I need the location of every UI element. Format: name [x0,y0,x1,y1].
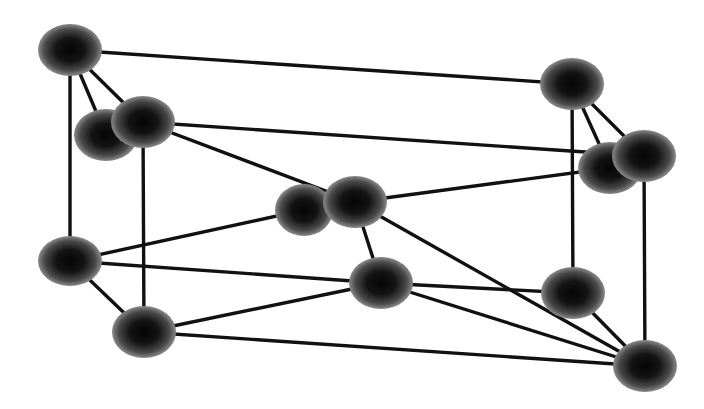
atom-D1 [38,236,102,286]
atom-D5 [613,340,677,392]
atom-A1 [38,24,102,76]
bond-C1-D1 [70,210,304,261]
atom-A3 [111,96,175,148]
atoms-layer [38,24,677,392]
atom-D3 [349,257,413,309]
crystal-lattice-diagram [0,0,704,409]
lattice-canvas [0,0,704,409]
atom-B3 [612,130,676,182]
bond-D2-D5 [144,332,645,366]
bond-A1-B1 [70,50,572,84]
atom-D2 [112,306,176,358]
atom-C1 [275,184,333,236]
bond-B3-D5 [644,156,645,366]
bond-B1-D4 [572,84,573,293]
bond-A3-D2 [143,122,144,332]
atom-D4 [541,267,605,319]
atom-B1 [540,58,604,110]
bond-D1-D3 [70,261,381,283]
bond-D2-D3 [144,283,381,332]
atom-C2 [323,176,387,228]
